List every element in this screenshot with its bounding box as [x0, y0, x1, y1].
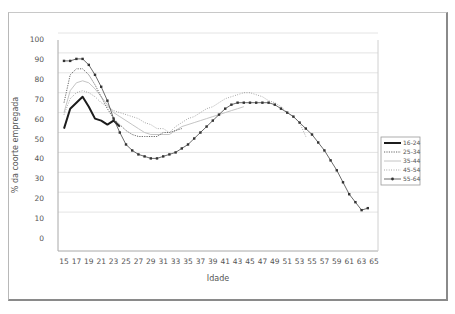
series-lines: [63, 58, 369, 212]
data-marker: [125, 143, 127, 145]
data-marker: [63, 60, 65, 62]
x-tick-label: 51: [282, 257, 292, 266]
x-tick-label: 45: [245, 257, 255, 266]
y-tick-label: 0: [39, 234, 44, 243]
data-marker: [143, 155, 145, 157]
x-tick-label: 65: [369, 257, 379, 266]
y-tick-label: 90: [34, 55, 44, 64]
x-tick-label: 29: [146, 257, 156, 266]
x-tick-label: 37: [196, 257, 206, 266]
x-tick-label: 63: [357, 257, 367, 266]
x-tick-label: 53: [295, 257, 305, 266]
data-marker: [137, 153, 139, 155]
data-marker: [174, 151, 176, 153]
x-tick-label: 39: [208, 257, 218, 266]
data-marker: [267, 101, 269, 103]
data-marker: [156, 157, 158, 159]
data-marker: [286, 111, 288, 113]
x-tick-label: 55: [307, 257, 317, 266]
x-tick-label: 49: [270, 257, 280, 266]
data-marker: [75, 58, 77, 60]
x-tick-label: 21: [96, 257, 106, 266]
y-tick-label: 40: [34, 154, 44, 163]
x-tick-label: 27: [134, 257, 144, 266]
x-tick-label: 19: [84, 257, 94, 266]
data-marker: [348, 193, 350, 195]
legend-label: 35-44: [403, 157, 421, 164]
data-marker: [354, 201, 356, 203]
y-tick-label: 30: [34, 174, 44, 183]
data-marker: [81, 58, 83, 60]
x-tick-label: 25: [121, 257, 131, 266]
data-marker: [150, 157, 152, 159]
data-marker: [236, 101, 238, 103]
y-tick-label: 70: [34, 95, 44, 104]
data-marker: [181, 147, 183, 149]
data-marker: [323, 149, 325, 151]
data-marker: [367, 207, 369, 209]
series-line-55-64: [64, 59, 368, 210]
data-marker: [212, 119, 214, 121]
data-marker: [298, 121, 300, 123]
series-line-25-34: [64, 69, 182, 137]
series-line-45-54: [64, 91, 306, 137]
line-chart: 1009080706050403020100 15171921232527293…: [0, 0, 455, 314]
data-marker: [218, 113, 220, 115]
legend-label: 25-34: [403, 148, 421, 155]
data-marker: [199, 131, 201, 133]
data-marker: [69, 60, 71, 62]
x-tick-label: 17: [72, 257, 82, 266]
data-marker: [230, 103, 232, 105]
x-tick-label: 57: [320, 257, 330, 266]
data-marker: [119, 131, 121, 133]
data-marker: [106, 99, 108, 101]
x-tick-label: 41: [220, 257, 230, 266]
x-axis-ticks: 1517192123252729313335373941434547495153…: [59, 257, 379, 266]
y-tick-label: 50: [34, 135, 44, 144]
legend-label: 55-64: [403, 175, 421, 182]
x-tick-label: 35: [183, 257, 193, 266]
y-tick-label: 100: [30, 35, 45, 44]
data-marker: [292, 115, 294, 117]
data-marker: [112, 117, 114, 119]
legend-marker-icon: [391, 178, 394, 181]
x-tick-label: 59: [332, 257, 342, 266]
x-tick-label: 23: [109, 257, 119, 266]
legend-label: 45-54: [403, 166, 421, 173]
x-tick-label: 15: [59, 257, 69, 266]
x-tick-label: 31: [158, 257, 168, 266]
y-tick-label: 60: [34, 115, 44, 124]
y-tick-label: 80: [34, 75, 44, 84]
data-marker: [187, 143, 189, 145]
data-marker: [336, 169, 338, 171]
data-marker: [249, 101, 251, 103]
y-axis-title: % da coorte empregada: [11, 97, 20, 194]
data-marker: [342, 181, 344, 183]
data-marker: [205, 125, 207, 127]
data-marker: [131, 149, 133, 151]
y-axis-ticks: 1009080706050403020100: [30, 35, 45, 243]
x-axis-title: Idade: [207, 274, 229, 283]
data-marker: [243, 101, 245, 103]
data-marker: [305, 127, 307, 129]
y-tick-label: 10: [34, 214, 44, 223]
data-marker: [274, 103, 276, 105]
data-marker: [317, 141, 319, 143]
data-marker: [255, 101, 257, 103]
data-marker: [329, 159, 331, 161]
data-marker: [280, 107, 282, 109]
data-marker: [88, 64, 90, 66]
data-marker: [94, 74, 96, 76]
y-tick-label: 20: [34, 194, 44, 203]
x-tick-label: 47: [258, 257, 268, 266]
data-marker: [193, 137, 195, 139]
data-marker: [100, 86, 102, 88]
legend: 16-2425-3435-4445-5455-64: [381, 137, 421, 185]
legend-label: 16-24: [403, 139, 421, 146]
data-marker: [162, 155, 164, 157]
data-marker: [168, 153, 170, 155]
data-marker: [224, 107, 226, 109]
data-marker: [311, 133, 313, 135]
x-tick-label: 61: [344, 257, 354, 266]
data-marker: [261, 101, 263, 103]
